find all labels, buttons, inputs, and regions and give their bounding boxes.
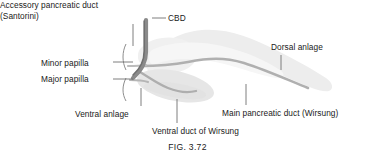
- label-cbd: CBD: [168, 13, 186, 24]
- label-ventral-anlage: Ventral anlage: [75, 109, 129, 120]
- label-accessory-pancreatic-duct: Accessory pancreatic duct (Santorini): [0, 0, 98, 21]
- label-accessory-duct-line1: Accessory pancreatic duct: [0, 0, 98, 10]
- label-main-pancreatic-duct: Main pancreatic duct (Wirsung): [222, 108, 338, 119]
- major-papilla-bracket: [123, 78, 126, 101]
- label-dorsal-anlage: Dorsal anlage: [271, 42, 323, 53]
- figure-caption: FIG. 3.72: [0, 142, 375, 152]
- figure-container: Accessory pancreatic duct (Santorini) CB…: [0, 0, 375, 164]
- label-major-papilla: Major papilla: [41, 74, 89, 85]
- papilla-brackets: [123, 44, 126, 101]
- label-ventral-duct-of-wirsung: Ventral duct of Wirsung: [152, 126, 239, 137]
- label-accessory-duct-line2: (Santorini): [0, 11, 39, 21]
- minor-papilla-bracket: [123, 44, 126, 70]
- label-minor-papilla: Minor papilla: [41, 58, 89, 69]
